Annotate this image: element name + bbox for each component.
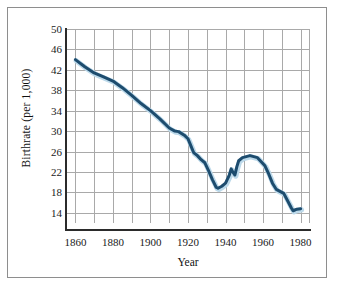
y-tick-label: 26	[36, 147, 62, 158]
x-tick-label: 1860	[55, 237, 95, 248]
y-tick-label: 46	[36, 44, 62, 55]
y-tick-label: 34	[36, 106, 62, 117]
x-axis-title: Year	[66, 256, 310, 268]
y-axis-tick-labels: 14182226303438424650	[33, 29, 62, 223]
x-tick-label: 1980	[281, 237, 321, 248]
y-tick-label: 30	[36, 126, 62, 137]
y-tick-label: 38	[36, 85, 62, 96]
y-tick-label: 50	[36, 24, 62, 35]
birthrate-line-series	[66, 29, 310, 223]
x-tick-label: 1940	[206, 237, 246, 248]
y-tick-label: 42	[36, 65, 62, 76]
x-axis-line	[65, 229, 311, 231]
x-tick-label: 1880	[93, 237, 133, 248]
y-tick-label: 14	[36, 208, 62, 219]
y-axis-title: Birthrate (per 1,000)	[20, 38, 32, 198]
x-tick-label: 1960	[243, 237, 283, 248]
y-tick-label: 18	[36, 187, 62, 198]
x-axis-tick-labels: 1860188019001920194019601980	[66, 237, 310, 251]
x-tick-label: 1900	[130, 237, 170, 248]
y-tick-label: 22	[36, 167, 62, 178]
x-tick-label: 1920	[168, 237, 208, 248]
series-line-halo	[76, 61, 301, 212]
birthrate-chart-figure: 14182226303438424650 1860188019001920194…	[0, 0, 340, 291]
